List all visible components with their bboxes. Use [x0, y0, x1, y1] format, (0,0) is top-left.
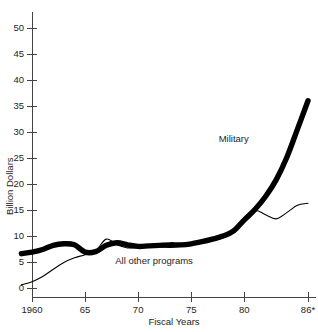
line-chart: 05101520253035404550 19606570758086* Bil…: [0, 0, 318, 332]
series-label-all-other-programs: All other programs: [115, 255, 193, 266]
x-tick-label: 80: [239, 304, 250, 315]
x-tick-label: 86*: [301, 304, 316, 315]
x-axis-ticks: 19606570758086*: [21, 292, 315, 315]
y-tick-label: 5: [19, 256, 24, 267]
chart-container: 05101520253035404550 19606570758086* Bil…: [0, 0, 318, 332]
x-tick-label: 75: [186, 304, 197, 315]
y-tick-label: 25: [13, 152, 24, 163]
y-axis-title: Billion Dollars: [4, 157, 15, 215]
x-tick-label: 1960: [21, 304, 42, 315]
x-tick-label: 70: [133, 304, 144, 315]
y-tick-label: 20: [13, 178, 24, 189]
y-tick-label: 45: [13, 48, 24, 59]
series-line-military: [21, 101, 308, 254]
y-tick-label: 30: [13, 126, 24, 137]
x-axis-title: Fiscal Years: [148, 316, 199, 327]
y-tick-label: 35: [13, 100, 24, 111]
y-tick-label: 50: [13, 22, 24, 33]
y-tick-label: 40: [13, 74, 24, 85]
x-tick-label: 65: [80, 304, 91, 315]
series-label-military: Military: [219, 133, 249, 144]
y-tick-label: 15: [13, 204, 24, 215]
y-tick-label: 10: [13, 230, 24, 241]
